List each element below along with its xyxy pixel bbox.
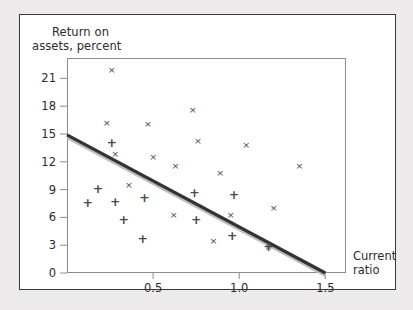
data-point-marker-plus: +: [138, 231, 148, 246]
data-point-marker-plus: +: [227, 228, 237, 243]
regression-line: [67, 135, 325, 275]
data-point-marker-plus: +: [229, 187, 239, 202]
data-point-marker-x: ×: [108, 64, 116, 75]
y-tick-label: 12: [41, 155, 56, 169]
data-point-marker-x: ×: [170, 209, 178, 220]
x-axis-ticks: 0.51.01.5: [144, 273, 335, 295]
x-tick-label: 1.5: [316, 281, 334, 295]
data-point-marker-x: ×: [103, 117, 111, 128]
data-point-marker-x: ×: [216, 167, 224, 178]
y-tick-label: 9: [49, 183, 56, 197]
data-point-marker-plus: +: [189, 185, 199, 200]
data-point-marker-x: ×: [144, 118, 152, 129]
y-tick-label: 15: [41, 127, 56, 141]
data-point-marker-x: ×: [194, 135, 202, 146]
y-tick-label: 0: [49, 266, 56, 280]
y-tick-label: 18: [41, 99, 56, 113]
data-point-marker-plus: +: [110, 194, 120, 209]
y-tick-label: 21: [41, 71, 56, 85]
data-point-marker-x: ×: [149, 151, 157, 162]
data-point-marker-plus: +: [139, 190, 149, 205]
data-point-marker-x: ×: [296, 160, 304, 171]
x-tick-label: 1.0: [230, 281, 248, 295]
y-axis-ticks: 036912151821: [41, 71, 67, 280]
x-tick-label: 0.5: [144, 281, 162, 295]
data-point-marker-plus: +: [107, 135, 117, 150]
data-point-marker-x: ×: [125, 179, 133, 190]
data-point-marker-x: ×: [270, 202, 278, 213]
data-point-marker-plus: +: [119, 212, 129, 227]
y-tick-label: 6: [49, 210, 56, 224]
regression-line-stroke: [67, 135, 325, 273]
data-point-marker-x: ×: [209, 235, 217, 246]
figure-page: Return on assets, percent Current ratio …: [0, 0, 413, 310]
scatter-plot: 036912151821 0.51.01.5 ×××××××××××××××××…: [20, 15, 397, 291]
regression-line-shadow: [67, 137, 325, 275]
data-points: ×××××××××××××××××++++++++++++: [82, 64, 303, 254]
data-point-marker-x: ×: [227, 209, 235, 220]
data-point-marker-plus: +: [82, 195, 92, 210]
data-point-marker-x: ×: [242, 139, 250, 150]
data-point-marker-plus: +: [191, 212, 201, 227]
data-point-marker-plus: +: [263, 239, 273, 254]
data-point-marker-x: ×: [189, 104, 197, 115]
data-point-marker-x: ×: [172, 160, 180, 171]
data-point-marker-plus: +: [93, 181, 103, 196]
y-tick-label: 3: [49, 238, 56, 252]
figure-card: Return on assets, percent Current ratio …: [19, 14, 396, 290]
